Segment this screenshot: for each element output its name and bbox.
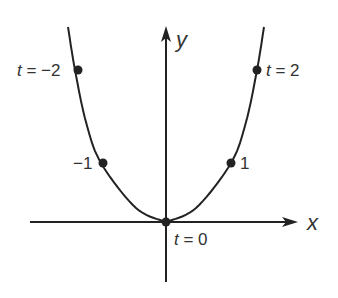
point-t-0 <box>162 218 171 227</box>
point-t-neg1 <box>99 159 108 168</box>
label-t-1: 1 <box>240 154 249 173</box>
label-t-0: t = 0 <box>174 230 208 249</box>
y-axis-label: y <box>174 27 189 52</box>
parametric-curve-diagram: y x t = −2 −1 t = 0 1 t = 2 <box>0 0 338 298</box>
label-t-neg2: t = −2 <box>17 61 61 80</box>
point-t-1 <box>227 159 236 168</box>
x-axis-label: x <box>306 210 319 235</box>
label-t-neg1: −1 <box>73 154 92 173</box>
point-t-neg2 <box>74 66 83 75</box>
label-t-2: t = 2 <box>266 61 300 80</box>
point-t-2 <box>253 66 262 75</box>
